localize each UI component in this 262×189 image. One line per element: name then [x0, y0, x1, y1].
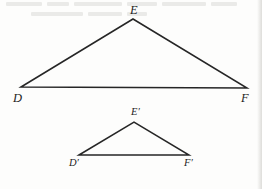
- vertex-label-E: E: [130, 4, 138, 17]
- vertex-label-D: D: [13, 92, 22, 105]
- vertex-label-F-prime: F′: [184, 158, 193, 169]
- vertex-label-D-prime: D′: [69, 158, 79, 169]
- geometry-figure: D E F D′ E′ F′: [0, 0, 262, 189]
- triangles-drawing: [0, 0, 262, 189]
- triangle-DEF-outline: [21, 19, 247, 88]
- vertex-label-F: F: [241, 92, 249, 105]
- vertex-label-E-prime: E′: [131, 107, 140, 118]
- triangle-D-prime-E-prime-F-prime-outline: [79, 122, 189, 155]
